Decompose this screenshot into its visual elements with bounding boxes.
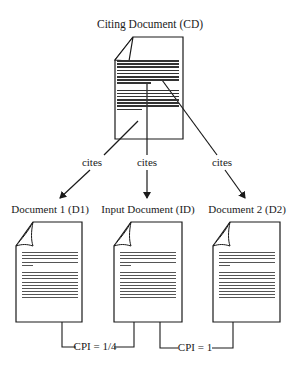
citing-document-label: Citing Document (CD) [97,18,203,30]
document-2-text [219,252,275,318]
document-1-label: Document 1 (D1) [11,203,89,215]
document-1-text [22,252,78,318]
document-2-label: Document 2 (D2) [208,203,286,215]
input-document-label: Input Document (ID) [101,203,194,215]
cpi-label-d1-id: CPI = 1/4 [74,340,117,352]
cites-label-d1: cites [82,156,102,168]
citing-document-text [117,60,181,137]
cpi-label-id-d2: CPI = 1 [178,341,212,353]
input-document-text [120,252,176,318]
cites-label-id: cites [137,156,157,168]
cites-label-d2: cites [212,156,232,168]
